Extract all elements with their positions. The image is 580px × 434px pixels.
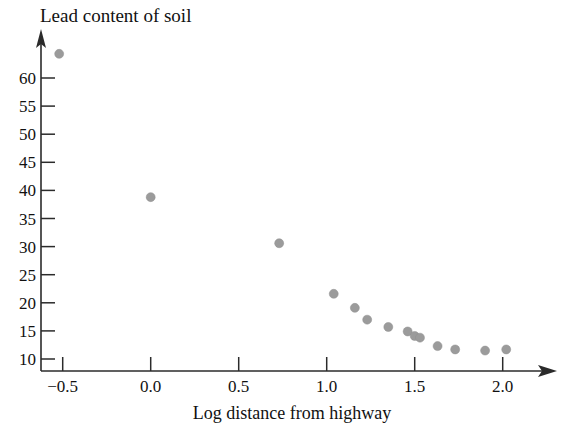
y-tick-label: 55 — [19, 97, 36, 116]
data-point — [329, 289, 338, 298]
x-tick-label: 2.0 — [492, 377, 513, 396]
data-point — [451, 345, 460, 354]
y-tick-label: 15 — [19, 322, 36, 341]
x-axis-label: Log distance from highway — [193, 403, 391, 423]
x-tick-label: 0.0 — [140, 377, 161, 396]
data-point — [363, 315, 372, 324]
y-tick-label: 50 — [19, 125, 36, 144]
x-axis-ticks — [63, 357, 503, 371]
y-tick-label: 30 — [19, 238, 36, 257]
data-point — [146, 193, 155, 202]
scatter-plot-figure: Lead content of soil 1015202530354045505… — [0, 0, 580, 434]
data-points-layer — [55, 49, 511, 355]
chart-canvas: Lead content of soil 1015202530354045505… — [0, 0, 580, 434]
y-tick-label: 60 — [19, 69, 36, 88]
y-tick-label: 40 — [19, 181, 36, 200]
y-tick-label: 35 — [19, 210, 36, 229]
y-axis-tick-labels: 1015202530354045505560 — [19, 69, 36, 369]
x-tick-label: 1.0 — [316, 377, 337, 396]
data-point — [481, 346, 490, 355]
data-point — [384, 322, 393, 331]
x-tick-label: 0.5 — [228, 377, 249, 396]
x-tick-label: 1.5 — [404, 377, 425, 396]
x-axis-tick-labels: −0.50.00.51.01.52.0 — [47, 377, 513, 396]
y-axis-ticks — [41, 78, 55, 359]
chart-title: Lead content of soil — [40, 5, 191, 26]
data-point — [433, 342, 442, 351]
x-tick-label: −0.5 — [47, 377, 78, 396]
y-tick-label: 45 — [19, 153, 36, 172]
y-tick-label: 20 — [19, 294, 36, 313]
data-point — [275, 239, 284, 248]
data-point — [415, 333, 424, 342]
data-point — [502, 345, 511, 354]
data-point — [55, 49, 64, 58]
data-point — [350, 303, 359, 312]
y-tick-label: 25 — [19, 266, 36, 285]
y-tick-label: 10 — [19, 350, 36, 369]
